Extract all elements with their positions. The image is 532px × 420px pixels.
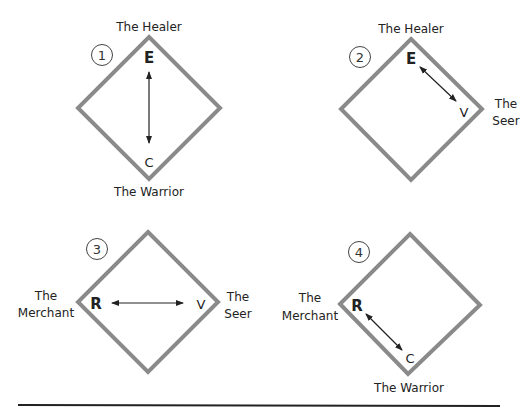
- label-healer-1: The Healer: [115, 20, 182, 34]
- bottom-rule: [18, 405, 500, 406]
- vertex-r-4: R: [351, 297, 363, 315]
- label-merchant-3-line2: Merchant: [18, 306, 75, 320]
- arrow-4: [366, 314, 402, 350]
- vertex-e-2: E: [406, 50, 416, 68]
- panel-2: 2 The Healer E V The Seer: [341, 22, 520, 180]
- label-seer-3-line1: The: [226, 290, 249, 304]
- panel-4: 4 The Merchant R C The Warrior: [282, 234, 480, 395]
- panel-number-1: 1: [98, 48, 106, 63]
- diagram-canvas: 1 The Healer E C The Warrior 2 The Heale…: [0, 0, 532, 420]
- label-healer-2: The Healer: [377, 22, 444, 36]
- label-seer-2-line1: The: [494, 97, 517, 111]
- panel-number-2: 2: [356, 50, 364, 65]
- vertex-c-4: C: [405, 351, 414, 366]
- vertex-v-2: V: [460, 105, 469, 120]
- label-merchant-3-line1: The: [34, 289, 57, 303]
- label-seer-3-line2: Seer: [224, 307, 251, 321]
- label-seer-2-line2: Seer: [492, 114, 519, 128]
- label-warrior-1: The Warrior: [113, 185, 184, 199]
- arrow-2: [420, 67, 456, 101]
- vertex-v-3: V: [197, 297, 206, 312]
- vertex-e-1: E: [144, 49, 154, 67]
- vertex-r-3: R: [90, 295, 102, 313]
- panel-number-3: 3: [93, 242, 101, 257]
- label-warrior-4: The Warrior: [373, 381, 444, 395]
- label-merchant-4-line1: The: [298, 291, 321, 305]
- panel-number-4: 4: [355, 245, 363, 260]
- vertex-c-1: C: [144, 155, 153, 170]
- panel-1: 1 The Healer E C The Warrior: [78, 20, 220, 199]
- label-merchant-4-line2: Merchant: [282, 309, 339, 323]
- panel-3: 3 The Merchant R V The Seer: [18, 232, 252, 372]
